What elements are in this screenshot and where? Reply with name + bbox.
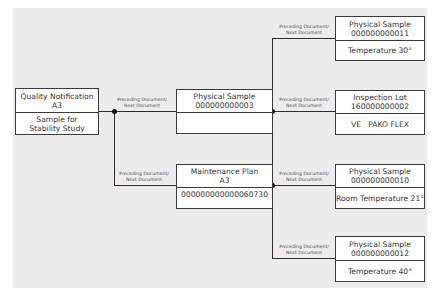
edge-label-ps12: Preceding Document/ Next Document xyxy=(273,244,335,256)
edge-label-inspection-lot: Preceding Document/ Next Document xyxy=(273,97,335,109)
node-body: Temperature 40° xyxy=(336,261,424,281)
node-title: Physical Sample xyxy=(349,20,411,29)
node-id: 000000000003 xyxy=(196,101,254,110)
node-detail: Temperature 30° xyxy=(348,46,412,55)
node-detail: 000000000000060730 xyxy=(181,190,268,199)
node-physical-sample-10[interactable]: Physical Sample 000000000010 Room Temper… xyxy=(335,164,425,209)
connector-right-vertical xyxy=(272,38,273,259)
connector-ps3-to-junction xyxy=(272,111,336,112)
node-header: Physical Sample 000000000003 xyxy=(177,90,272,113)
node-header: Physical Sample 000000000010 xyxy=(336,165,424,188)
node-header: Quality Notification A3 xyxy=(16,89,98,113)
node-id: 000000000010 xyxy=(351,176,409,185)
edge-label-line2: Next Document xyxy=(108,103,176,109)
node-id: 000000000012 xyxy=(351,249,409,258)
node-body: VE PAKO FLEX xyxy=(336,114,424,134)
node-title: Physical Sample xyxy=(349,240,411,249)
node-body xyxy=(177,113,272,133)
edge-label-line2: Next Document xyxy=(273,250,335,256)
edge-label-ps10: Preceding Document/ Next Document xyxy=(273,171,335,183)
node-detail: Temperature 40° xyxy=(348,267,412,276)
node-detail: VE PAKO FLEX xyxy=(351,120,409,129)
node-detail: Stability Study xyxy=(29,124,84,133)
edge-label-qn-mp: Preceding Document/ Next Document xyxy=(112,171,176,183)
connector-qn-to-ps3 xyxy=(98,111,176,112)
node-maintenance-plan[interactable]: Maintenance Plan A3 000000000000060730 xyxy=(176,164,273,209)
node-body: 000000000000060730 xyxy=(177,188,272,208)
node-title: Physical Sample xyxy=(349,167,411,176)
node-body: Room Temperature 21° xyxy=(336,188,424,208)
edge-label-ps11: Preceding Document/ Next Document xyxy=(273,24,335,36)
junction-dot-left xyxy=(112,109,117,114)
edge-label-line2: Next Document xyxy=(273,103,335,109)
node-title: Quality Notification xyxy=(20,92,93,101)
node-header: Physical Sample 000000000011 xyxy=(336,17,424,41)
node-id: A3 xyxy=(52,101,62,110)
node-quality-notification[interactable]: Quality Notification A3 Sample for Stabi… xyxy=(15,88,99,135)
node-header: Maintenance Plan A3 xyxy=(177,165,272,188)
edge-label-line2: Next Document xyxy=(273,177,335,183)
node-id: 160000000002 xyxy=(351,102,409,111)
node-title: Inspection Lot xyxy=(353,93,406,102)
connector-to-ps12 xyxy=(272,258,336,259)
connector-to-ps11 xyxy=(272,38,336,39)
node-title: Maintenance Plan xyxy=(191,167,258,176)
node-header: Inspection Lot 160000000002 xyxy=(336,91,424,114)
connector-to-ps10 xyxy=(272,185,336,186)
node-inspection-lot[interactable]: Inspection Lot 160000000002 VE PAKO FLEX xyxy=(335,90,425,135)
connector-to-maintenance-plan xyxy=(114,185,176,186)
node-header: Physical Sample 000000000012 xyxy=(336,237,424,261)
node-physical-sample-11[interactable]: Physical Sample 000000000011 Temperature… xyxy=(335,16,425,61)
node-id: 000000000011 xyxy=(351,29,409,38)
node-id: A3 xyxy=(219,176,229,185)
node-title: Physical Sample xyxy=(194,92,256,101)
node-body: Sample for Stability Study xyxy=(16,113,98,134)
node-body: Temperature 30° xyxy=(336,41,424,60)
node-physical-sample-3[interactable]: Physical Sample 000000000003 xyxy=(176,89,273,134)
edge-label-line2: Next Document xyxy=(273,30,335,36)
edge-label-qn-ps3: Preceding Document/ Next Document xyxy=(108,97,176,109)
edge-label-line2: Next Document xyxy=(112,177,176,183)
node-physical-sample-12[interactable]: Physical Sample 000000000012 Temperature… xyxy=(335,236,425,282)
node-detail: Room Temperature 21° xyxy=(336,194,424,203)
node-detail: Sample for xyxy=(36,115,77,124)
